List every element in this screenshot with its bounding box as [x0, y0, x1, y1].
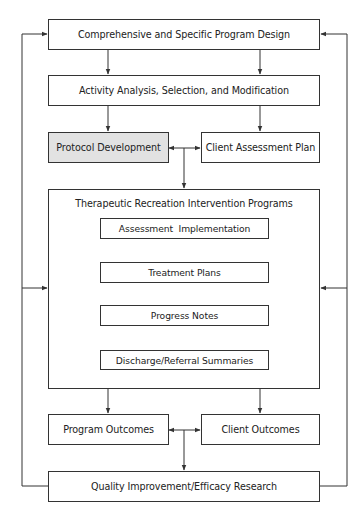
- client-outcomes-label: Client Outcomes: [221, 424, 299, 435]
- client-outcomes-box: Client Outcomes: [201, 414, 320, 445]
- protocol-development-box: Protocol Development: [48, 132, 169, 163]
- client-assessment-plan-label: Client Assessment Plan: [206, 142, 316, 153]
- intervention-programs-title: Therapeutic Recreation Intervention Prog…: [49, 198, 319, 209]
- protocol-development-label: Protocol Development: [56, 142, 160, 153]
- assessment-implementation-box: Assessment Implementation: [100, 218, 269, 239]
- progress-notes-box: Progress Notes: [100, 305, 269, 326]
- assessment-implementation-label: Assessment Implementation: [119, 223, 250, 234]
- program-outcomes-box: Program Outcomes: [48, 414, 169, 445]
- treatment-plans-label: Treatment Plans: [148, 267, 221, 278]
- quality-improvement-box: Quality Improvement/Efficacy Research: [48, 471, 320, 502]
- discharge-referral-label: Discharge/Referral Summaries: [116, 355, 253, 366]
- discharge-referral-box: Discharge/Referral Summaries: [100, 350, 269, 370]
- activity-analysis-box: Activity Analysis, Selection, and Modifi…: [48, 75, 320, 106]
- treatment-plans-box: Treatment Plans: [100, 262, 269, 283]
- quality-improvement-label: Quality Improvement/Efficacy Research: [91, 481, 277, 492]
- program-outcomes-label: Program Outcomes: [63, 424, 154, 435]
- program-design-label: Comprehensive and Specific Program Desig…: [78, 29, 290, 40]
- progress-notes-label: Progress Notes: [151, 310, 218, 321]
- client-assessment-plan-box: Client Assessment Plan: [201, 132, 320, 163]
- activity-analysis-label: Activity Analysis, Selection, and Modifi…: [79, 85, 289, 96]
- program-design-box: Comprehensive and Specific Program Desig…: [48, 19, 320, 50]
